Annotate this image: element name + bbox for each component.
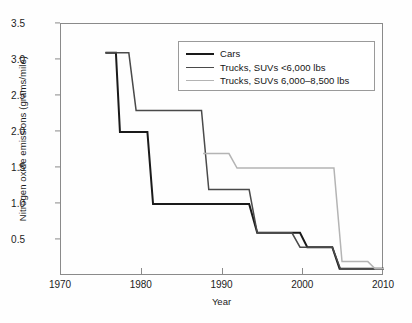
- x-axis-title: Year: [60, 296, 383, 307]
- legend-label-cars: Cars: [220, 48, 240, 59]
- x-axis-tick-label: 2000: [282, 279, 322, 290]
- y-axis-tick-label: 0.5: [0, 234, 25, 245]
- legend-swatch-cars: [186, 53, 214, 55]
- legend-swatch-trucks-6000-8500: [186, 80, 214, 81]
- series-line: [203, 154, 384, 269]
- y-axis-tick-label: 1.5: [0, 162, 25, 173]
- y-axis-tick-label: 3.0: [0, 54, 25, 65]
- x-axis-tick-label: 2010: [363, 279, 403, 290]
- x-axis-tick-label: 1980: [121, 279, 161, 290]
- legend-label-trucks-6000-8500: Trucks, SUVs 6,000–8,500 lbs: [220, 75, 349, 86]
- y-axis-tick-label: 2.5: [0, 90, 25, 101]
- x-axis-tick-label: 1970: [40, 279, 80, 290]
- x-axis-tick-label: 1990: [202, 279, 242, 290]
- y-axis-tick-label: 3.5: [0, 18, 25, 29]
- legend-item-cars: Cars: [186, 47, 368, 61]
- chart-figure: Nitrogen oxide emissions (grams/mile) Ye…: [0, 0, 412, 323]
- legend-item-trucks-under-6000: Trucks, SUVs <6,000 lbs: [186, 61, 368, 75]
- y-axis-tick-label: 2.0: [0, 126, 25, 137]
- legend-label-trucks-under-6000: Trucks, SUVs <6,000 lbs: [220, 62, 326, 73]
- chart-legend: Cars Trucks, SUVs <6,000 lbs Trucks, SUV…: [178, 41, 375, 91]
- legend-swatch-trucks-under-6000: [186, 67, 214, 68]
- legend-item-trucks-6000-8500: Trucks, SUVs 6,000–8,500 lbs: [186, 74, 368, 88]
- y-axis-tick-label: 1.0: [0, 198, 25, 209]
